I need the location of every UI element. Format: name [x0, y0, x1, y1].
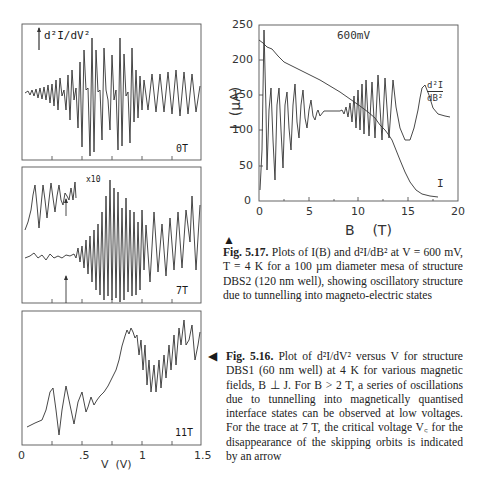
fig517-caption: Fig. 5.17. Plots of I(B) and d²I/dB² at …: [223, 246, 463, 303]
panel-label-0t: 0T: [176, 143, 188, 154]
y-tick-250: 250: [232, 18, 253, 31]
panel-7T: [22, 167, 201, 303]
b-tick-20: 20: [451, 205, 465, 218]
bias-annotation: 600mV: [337, 29, 370, 42]
y-tick-50: 50: [239, 159, 253, 172]
x-tick-1: 1: [139, 449, 146, 462]
x-tick-1-5: 1.5: [194, 449, 212, 462]
x-axis-label-voltage: V (V): [101, 458, 132, 471]
x-axis-label-field: B (T): [345, 222, 392, 238]
fig517-plot: [259, 25, 458, 201]
b-tick-0: 0: [256, 205, 263, 218]
panel-0T: [22, 24, 201, 160]
y-axis-label-current: I (µA): [227, 73, 243, 143]
panel-11T: [22, 311, 201, 445]
b-tick-10: 10: [351, 205, 365, 218]
fig517-number: Fig. 5.17.: [223, 246, 269, 259]
fig516-caption: Fig. 5.16. Plot of d²I/dV² versus V for …: [226, 350, 463, 464]
fig516-text: Plot of d²I/dV² versus V for structure D…: [226, 350, 463, 463]
curve-label-denominator: dB²: [427, 92, 443, 103]
fig516-marker: ◀: [208, 349, 217, 364]
b-tick-15: 15: [401, 205, 415, 218]
x-tick-0: 0: [18, 449, 25, 462]
fig516-number: Fig. 5.16.: [226, 350, 273, 363]
y-tick-0: 0: [244, 194, 251, 207]
x-tick-0-5: .5: [79, 449, 90, 462]
y-tick-200: 200: [232, 53, 253, 66]
panel-label-11t: 11T: [175, 427, 193, 438]
curve-label-numerator: d²I: [427, 80, 443, 92]
y-axis-label-d2i-dv2: d²I/dV²: [44, 29, 90, 42]
curve-label-d2i-db2: d²I dB²: [427, 80, 443, 103]
panel-label-7t: 7T: [176, 285, 188, 296]
b-tick-5: 5: [306, 205, 313, 218]
inset-scale-label: x10: [86, 175, 100, 184]
curve-label-i: I: [437, 177, 444, 190]
